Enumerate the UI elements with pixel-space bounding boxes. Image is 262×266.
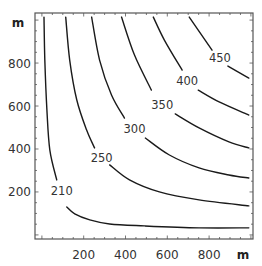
y-axis-tick-labels: 200400600800 (8, 57, 31, 200)
x-axis-unit-label: m (237, 248, 250, 262)
contour-line-450 (228, 66, 249, 78)
contour-label-400: 400 (176, 74, 198, 88)
x-tick-label: 800 (198, 248, 221, 262)
y-tick-label: 800 (8, 57, 31, 71)
contour-line-450 (189, 17, 212, 50)
x-tick-label: 600 (156, 248, 179, 262)
contour-line-400 (198, 90, 249, 115)
contour-line-250 (110, 165, 249, 206)
contour-chart: 210250300350400450 200400600800 20040060… (0, 0, 262, 266)
contour-line-350 (175, 114, 249, 148)
contour-labels: 210250300350400450 (51, 51, 231, 198)
contour-line-350 (122, 17, 152, 90)
contour-label-300: 300 (124, 122, 146, 136)
y-axis-unit-label: m (12, 16, 25, 30)
contour-line-250 (66, 17, 95, 148)
contour-label-210: 210 (51, 184, 73, 198)
contour-line-400 (153, 17, 182, 70)
y-tick-label: 200 (8, 185, 31, 199)
contour-line-300 (92, 17, 125, 118)
y-tick-label: 600 (8, 100, 31, 114)
y-tick-label: 400 (8, 142, 31, 156)
x-tick-label: 200 (72, 248, 95, 262)
contour-label-250: 250 (91, 151, 113, 165)
contour-line-210 (67, 207, 249, 228)
contour-label-450: 450 (209, 51, 231, 65)
x-tick-label: 400 (114, 248, 137, 262)
contour-lines (44, 17, 249, 228)
contour-label-350: 350 (151, 98, 173, 112)
x-axis-tick-labels: 200400600800 (72, 248, 220, 262)
contour-line-210 (44, 17, 57, 180)
